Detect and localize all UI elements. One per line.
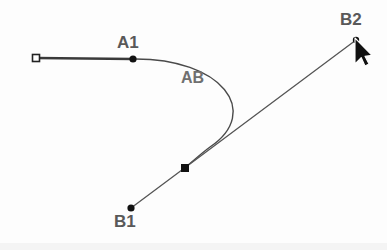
handle-open-square-a[interactable] [33,55,40,62]
node-b1[interactable] [127,204,134,211]
handle-filled-square-mid[interactable] [181,164,189,172]
canvas-background [0,0,387,250]
vector-editor-artboard[interactable] [0,0,387,250]
label-b2: B2 [340,10,362,30]
canvas-bottom-edge [0,243,387,250]
segment-a-handle[interactable] [36,58,133,59]
node-a1[interactable] [129,55,136,62]
label-b1: B1 [114,212,136,232]
label-a1: A1 [117,33,139,53]
diagram-canvas: A1 AB B1 B2 [0,0,387,250]
label-ab: AB [181,69,204,87]
